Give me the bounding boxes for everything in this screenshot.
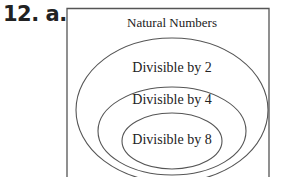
set-label-divisible-by-2: Divisible by 2 [132,60,211,75]
set-label-divisible-by-8: Divisible by 8 [132,132,211,147]
set-divisible-by-2 [76,38,268,177]
set-label-divisible-by-4: Divisible by 4 [132,92,211,107]
universe-label: Natural Numbers [127,15,217,30]
venn-diagram: Natural Numbers Divisible by 2 Divisible… [0,0,282,177]
